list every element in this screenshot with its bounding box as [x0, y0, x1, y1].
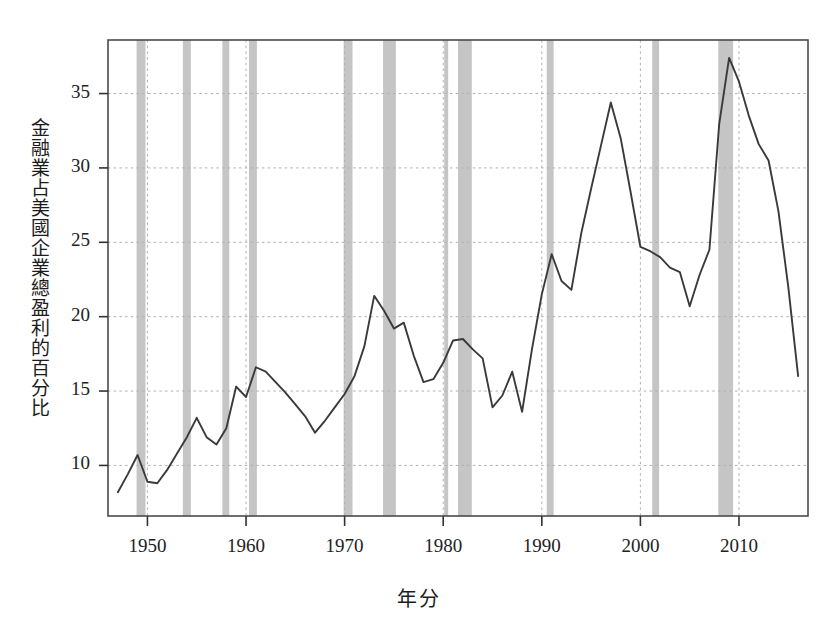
recession-band — [183, 40, 191, 516]
y-tick-label: 25 — [46, 229, 90, 251]
y-tick-label: 30 — [46, 155, 90, 177]
recession-band — [222, 40, 229, 516]
recession-band — [344, 40, 353, 516]
x-tick-label: 2010 — [694, 535, 784, 557]
recession-band — [249, 40, 257, 516]
x-tick-label: 2000 — [595, 535, 685, 557]
recession-band — [458, 40, 472, 516]
y-tick-label: 35 — [46, 81, 90, 103]
y-tick-label: 20 — [46, 304, 90, 326]
x-tick-label: 1950 — [102, 535, 192, 557]
chart-figure: 金融業占美國企業總盈利的百分比 年分 101520253035 19501960… — [0, 0, 838, 637]
x-tick-label: 1980 — [398, 535, 488, 557]
x-axis-title: 年分 — [0, 583, 838, 612]
recession-bands — [137, 40, 733, 516]
recession-band — [383, 40, 396, 516]
x-tick-label: 1960 — [201, 535, 291, 557]
recession-band — [547, 40, 554, 516]
recession-band — [444, 40, 448, 516]
recession-band — [137, 40, 146, 516]
recession-band — [652, 40, 659, 516]
y-tick-label: 15 — [46, 378, 90, 400]
x-tick-label: 1970 — [300, 535, 390, 557]
x-tick-label: 1990 — [497, 535, 587, 557]
y-tick-label: 10 — [46, 452, 90, 474]
axis-ticks — [99, 94, 739, 526]
